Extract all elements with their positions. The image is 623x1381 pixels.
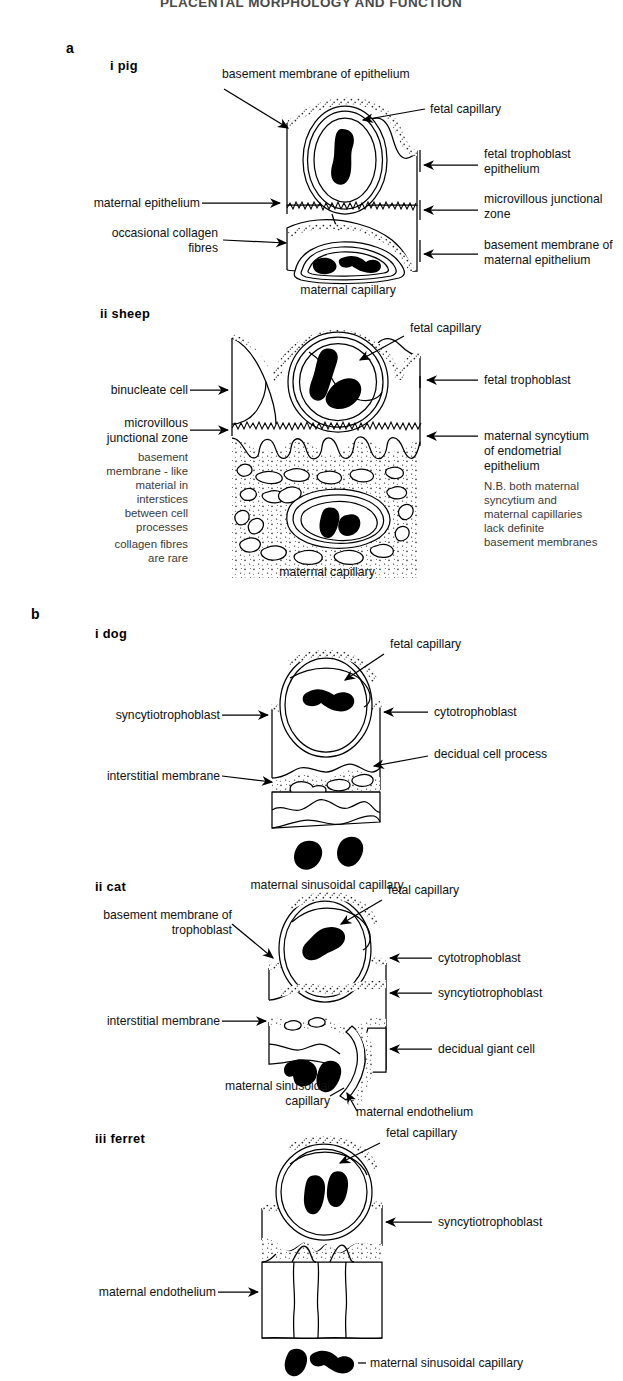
dog-decidual-process-2 (327, 779, 350, 790)
note-left-line-6: processes (136, 521, 188, 533)
label-cat-trophoblast: trophoblast (172, 923, 233, 937)
label-cat-basement-membrane-of: basement membrane of (103, 908, 232, 922)
label-sheep-binucleate-cell: binucleate cell (111, 383, 188, 397)
label-ferret-maternal-endothelium: maternal endothelium (99, 1285, 216, 1299)
label-cat-maternal-endothelium: maternal endothelium (356, 1105, 473, 1119)
label-pig-fetal-trophoblast: fetal trophoblast (484, 147, 571, 161)
note-left-line-2: membrane - like (106, 465, 188, 477)
label-pig-basement-membrane-maternal: basement membrane of (484, 238, 613, 252)
note-right-line-1: N.B. both maternal (484, 480, 579, 492)
label-dog-decidual-cell-process: decidual cell process (434, 747, 547, 761)
label-pig-fibres: fibres (188, 241, 218, 255)
note-right-line-2: syncytium and (484, 494, 557, 506)
label-cat-cytotrophoblast: cytotrophoblast (438, 951, 521, 965)
label-dog-fetal-capillary: fetal capillary (390, 637, 462, 651)
note-left-line-4: interstices (137, 493, 189, 505)
label-cat-interstitial-membrane: interstitial membrane (107, 1014, 220, 1028)
ferret-maternal-endothelium-block (262, 1262, 382, 1338)
label-sheep-junctional-zone: junctional zone (106, 431, 189, 445)
label-ferret-syncytiotrophoblast: syncytiotrophoblast (438, 1215, 543, 1229)
page-title: PLACENTAL MORPHOLOGY AND FUNCTION (160, 0, 462, 10)
placental-morphology-figure: PLACENTAL MORPHOLOGY AND FUNCTION a i pi… (0, 0, 623, 1381)
label-pig-occasional-collagen: occasional collagen (112, 226, 218, 240)
label-pig-maternal-epithelium-2: maternal epithelium (484, 253, 590, 267)
label-cat-fetal-capillary: fetal capillary (388, 883, 460, 897)
label-sheep-epithelium: epithelium (484, 459, 540, 473)
note-right-line-5: basement membranes (484, 536, 598, 548)
label-pig-basement-membrane-epithelium: basement membrane of epithelium (222, 67, 410, 81)
panel-heading-pig: i pig (110, 58, 138, 73)
note-left-line-3: material in (135, 479, 188, 491)
label-cat-maternal-sinusoidal: maternal sinusoidal (225, 1079, 330, 1093)
label-pig-maternal-epithelium: maternal epithelium (94, 196, 200, 210)
label-pig-fetal-trophoblast-2: epithelium (484, 162, 540, 176)
label-sheep-microvillous: microvillous (124, 416, 188, 430)
label-cat-syncytiotrophoblast: syncytiotrophoblast (438, 986, 543, 1000)
cat-membrane-lobe-2 (308, 1018, 325, 1027)
panel-heading-dog: i dog (95, 626, 127, 641)
label-dog-interstitial-membrane: interstitial membrane (107, 769, 220, 783)
note-right-line-4: lack definite (484, 522, 544, 534)
figure-canvas: PLACENTAL MORPHOLOGY AND FUNCTION a i pi… (0, 0, 623, 1381)
label-sheep-fetal-capillary: fetal capillary (410, 321, 482, 335)
label-sheep-of-endometrial: of endometrial (484, 444, 561, 458)
label-dog-cytotrophoblast: cytotrophoblast (434, 705, 517, 719)
note-left-line-5: between cell (125, 507, 188, 519)
note-left-line-1: basement (138, 451, 189, 463)
note-left-line-8: are rare (148, 552, 188, 564)
label-cat-decidual-giant-cell: decidual giant cell (438, 1042, 535, 1056)
note-right-line-3: maternal capillaries (484, 508, 582, 520)
label-pig-microvillous-zone: zone (484, 207, 511, 221)
panel-heading-cat: ii cat (95, 879, 126, 894)
label-sheep-maternal-capillary: maternal capillary (279, 565, 375, 579)
label-sheep-fetal-trophoblast: fetal trophoblast (484, 373, 571, 387)
label-sheep-maternal-syncytium: maternal syncytium (484, 429, 589, 443)
cat-membrane-lobe-1 (284, 1021, 301, 1030)
label-pig-microvillous-junctional: microvillous junctional (484, 192, 603, 206)
section-label-a: a (66, 40, 74, 56)
label-dog-syncytiotrophoblast: syncytiotrophoblast (116, 708, 221, 722)
section-label-b: b (31, 606, 40, 622)
label-cat-capillary: capillary (285, 1094, 331, 1108)
label-ferret-maternal-sinusoidal-capillary: maternal sinusoidal capillary (370, 1356, 524, 1370)
label-pig-maternal-capillary: maternal capillary (300, 283, 396, 297)
label-dog-maternal-sinusoidal-capillary: maternal sinusoidal capillary (250, 878, 404, 892)
note-left-line-7: collagen fibres (115, 538, 189, 550)
panel-heading-ferret: iii ferret (95, 1131, 145, 1146)
dog-decidual-process-3 (352, 774, 373, 786)
label-ferret-fetal-capillary: fetal capillary (386, 1126, 458, 1140)
panel-heading-sheep: ii sheep (100, 306, 150, 321)
label-pig-fetal-capillary: fetal capillary (430, 102, 502, 116)
